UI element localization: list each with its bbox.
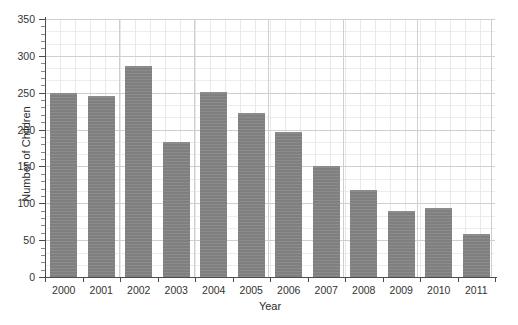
y-tick-minor [41,159,45,160]
x-tick-label-2011: 2011 [454,285,498,296]
bar-series [45,19,495,277]
y-tick-minor [41,181,45,182]
y-tick-label: 150 [0,161,35,172]
bar-2001[interactable] [88,96,115,277]
x-tick [45,277,46,282]
plot-area [45,19,495,277]
y-tick-minor [41,144,45,145]
bar-2002[interactable] [125,66,152,277]
y-tick-label: 0 [0,272,35,283]
y-tick-minor [41,248,45,249]
bar-slot [308,19,346,277]
x-axis-title: Year [45,300,495,312]
y-tick-minor [41,196,45,197]
y-tick-minor [41,233,45,234]
y-tick-label: 250 [0,88,35,99]
bar-2005[interactable] [238,113,265,277]
y-tick-label: 50 [0,235,35,246]
bar-slot [345,19,383,277]
bar-2009[interactable] [388,211,415,277]
y-tick-minor [41,85,45,86]
y-tick-minor [41,189,45,190]
x-tick [120,277,121,282]
y-tick-minor [41,71,45,72]
y-tick-minor [41,26,45,27]
bar-2007[interactable] [313,166,340,277]
x-tick [195,277,196,282]
x-tick [420,277,421,282]
bar-chart-figure: Number of Children 050100150200250300350… [0,0,518,325]
x-tick [83,277,84,282]
y-tick-label: 350 [0,14,35,25]
x-tick [270,277,271,282]
y-axis-line [45,17,46,279]
y-tick-minor [41,100,45,101]
bar-slot [270,19,308,277]
y-tick [39,19,45,20]
y-tick-minor [41,48,45,49]
y-tick-minor [41,270,45,271]
bar-slot [45,19,83,277]
bar-slot [458,19,496,277]
y-tick-minor [41,34,45,35]
y-tick-minor [41,78,45,79]
x-tick [383,277,384,282]
y-tick-minor [41,152,45,153]
y-tick [39,203,45,204]
y-tick-minor [41,225,45,226]
x-tick [308,277,309,282]
y-tick-minor [41,174,45,175]
bar-slot [83,19,121,277]
y-tick-minor [41,255,45,256]
bar-2000[interactable] [50,93,77,277]
y-tick-minor [41,41,45,42]
y-tick [39,166,45,167]
x-tick [458,277,459,282]
y-tick [39,56,45,57]
bar-2011[interactable] [463,234,490,277]
bar-2010[interactable] [425,208,452,277]
bar-slot [383,19,421,277]
y-tick-minor [41,262,45,263]
y-tick-label: 300 [0,51,35,62]
y-tick [39,240,45,241]
bar-slot [195,19,233,277]
y-tick-minor [41,63,45,64]
y-tick [39,93,45,94]
y-tick-label: 100 [0,198,35,209]
y-tick [39,130,45,131]
y-tick-minor [41,211,45,212]
y-tick-minor [41,115,45,116]
y-tick-minor [41,122,45,123]
x-tick [233,277,234,282]
bar-2003[interactable] [163,142,190,277]
chart-title [0,0,518,5]
bar-2008[interactable] [350,190,377,277]
bar-slot [120,19,158,277]
bar-slot [158,19,196,277]
y-tick-minor [41,137,45,138]
bar-slot [420,19,458,277]
bar-2006[interactable] [275,132,302,277]
x-tick [495,277,496,282]
x-tick [158,277,159,282]
y-tick-label: 200 [0,125,35,136]
y-tick-minor [41,107,45,108]
bar-2004[interactable] [200,92,227,277]
bar-slot [233,19,271,277]
y-tick-minor [41,218,45,219]
x-tick [345,277,346,282]
